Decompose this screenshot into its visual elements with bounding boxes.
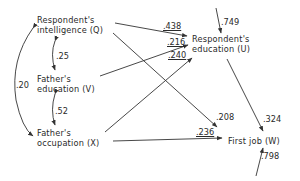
coef-x-u: .240 [168,51,186,60]
correlation-arc-q-v [53,41,56,70]
node-q-line2: intelligence (Q) [37,25,103,35]
node-q-line1: Respondent's [37,15,103,25]
node-v-line2: education (V) [37,84,95,94]
node-respondent-education: Respondent's education (U) [192,34,250,54]
path-x-w [113,138,222,141]
coef-q-x: .20 [16,81,29,90]
coef-v-x: .52 [55,107,68,116]
coef-v-u: .216 [167,38,185,47]
coef-q-u: .438 [163,22,181,31]
coef-q-v: .25 [56,52,69,61]
node-u-line1: Respondent's [192,34,250,44]
node-u-line2: education (U) [192,44,250,54]
node-v-line1: Father's [37,74,95,84]
node-w-line1: First job (W) [228,136,280,146]
node-x-line2: occupation (X) [37,138,100,148]
residual-coef-u: .749 [221,18,239,27]
coef-x-w: .236 [196,128,214,137]
node-father-occupation: Father's occupation (X) [37,128,100,148]
coef-q-w: .208 [216,113,234,122]
coef-u-w: .324 [263,115,281,124]
node-father-education: Father's education (V) [37,74,95,94]
residual-coef-w: .798 [261,152,279,161]
node-first-job: First job (W) [228,136,280,146]
path-x-u [105,58,192,132]
node-x-line1: Father's [37,128,100,138]
node-respondent-intelligence: Respondent's intelligence (Q) [37,15,103,35]
